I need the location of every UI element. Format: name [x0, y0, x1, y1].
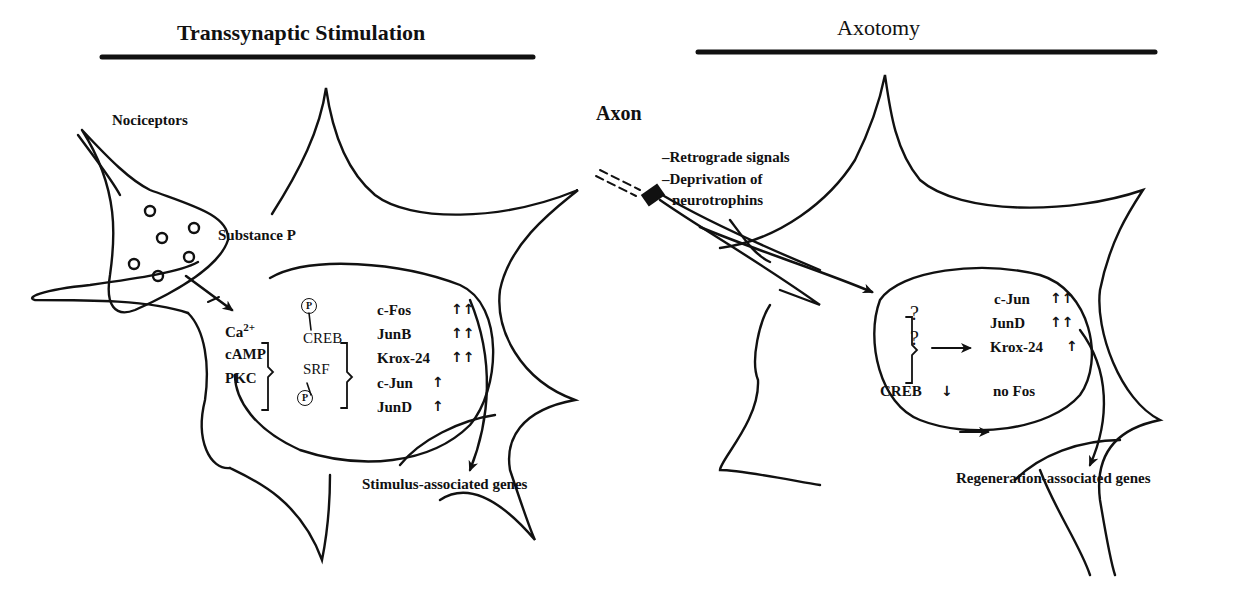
phospho-srf: P: [297, 390, 313, 406]
no-fos-label: no Fos: [993, 384, 1035, 399]
gene-jund: JunD: [990, 316, 1025, 331]
second-messenger-pkc: PKC: [225, 371, 257, 386]
arrow-up-icon: ↑: [432, 399, 444, 413]
regeneration-genes-label: Regeneration-associated genes: [956, 471, 1151, 486]
axon-label: Axon: [596, 103, 642, 123]
arrow-up-icon: ↑: [1066, 339, 1078, 353]
left-brace-2: [341, 343, 352, 408]
signal-retrograde: –Retrograde signals: [662, 150, 790, 165]
gene-cjun: c-Jun: [377, 376, 413, 391]
stimulus-genes-label: Stimulus-associated genes: [362, 477, 527, 492]
second-messenger-ca: Ca2+: [225, 322, 255, 340]
ca-superscript: 2+: [243, 321, 255, 333]
right-panel-title: Axotomy: [837, 17, 920, 39]
nociceptors-label: Nociceptors: [112, 113, 188, 128]
srf-label: SRF: [303, 362, 330, 377]
gene-jund: JunD: [377, 400, 412, 415]
substance-p-arrow: [186, 276, 232, 310]
substance-p-label: Substance P: [218, 228, 296, 243]
arrow-up-double-icon: ↑↑: [451, 302, 474, 316]
unknown-factor-2: ?: [910, 328, 919, 348]
arrow-up-double-icon: ↑↑: [1050, 315, 1073, 329]
signal-neurotrophins: neurotrophins: [672, 193, 763, 208]
creb-label: CREB: [303, 331, 342, 346]
arrow-up-double-icon: ↑↑: [451, 326, 474, 340]
arrow-up-icon: ↑: [432, 375, 444, 389]
arrow-down-icon: ↓: [941, 384, 953, 398]
gene-junb: JunB: [377, 327, 411, 342]
arrow-up-double-icon: ↑↑: [451, 350, 474, 364]
unknown-factor-1: ?: [910, 303, 919, 323]
phospho-creb: P: [301, 298, 317, 314]
creb-down-label: CREB: [880, 384, 922, 399]
second-messenger-camp: cAMP: [225, 347, 266, 362]
gene-krox24: Krox-24: [377, 351, 430, 366]
gene-cfos: c-Fos: [377, 303, 411, 318]
gene-cjun: c-Jun: [994, 292, 1030, 307]
left-panel-title: Transsynaptic Stimulation: [177, 22, 425, 44]
signal-deprivation: –Deprivation of: [662, 172, 762, 187]
gene-krox24: Krox-24: [990, 340, 1043, 355]
nociceptor-terminal: [78, 130, 228, 312]
arrow-up-double-icon: ↑↑: [1050, 291, 1073, 305]
